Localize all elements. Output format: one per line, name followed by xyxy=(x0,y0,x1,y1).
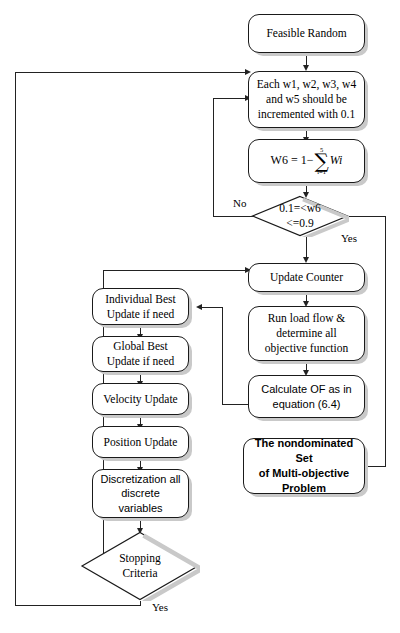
summation-lower-limit: i=1 xyxy=(317,169,326,176)
node-feasible-random[interactable]: Feasible Random xyxy=(248,14,365,53)
edge-calcof-horizontal-out xyxy=(222,404,248,405)
node-stopping-criteria[interactable]: Stopping Criteria xyxy=(80,531,200,601)
node-velocity-update[interactable]: Velocity Update xyxy=(92,383,189,415)
node-position-update[interactable]: Position Update xyxy=(92,426,189,458)
node-feasible-random-label: Feasible Random xyxy=(261,26,351,41)
summation-symbol: 5 ∑ i=1 xyxy=(314,147,328,175)
node-run-load-flow-label: Run load flow & determine all objective … xyxy=(260,311,353,355)
node-w6-check[interactable]: 0.1=<w6 <=0.9 xyxy=(251,195,349,237)
edge-stopyes-horizontal-bottom xyxy=(15,605,141,606)
edge-check-to-counter xyxy=(306,237,307,259)
summation-sigma-glyph: ∑ xyxy=(314,153,328,170)
node-w6-formula-expression: W6 = 1− 5 ∑ i=1 Wi xyxy=(271,147,343,175)
node-update-counter-label: Update Counter xyxy=(265,270,348,285)
node-increment-weights[interactable]: Each w1, w2, w3, w4 and w5 should be inc… xyxy=(248,71,365,128)
node-increment-weights-label: Each w1, w2, w3, w4 and w5 should be inc… xyxy=(252,77,361,121)
node-nondominated-set-label: The nondominated Set of Multi-objective … xyxy=(244,436,364,497)
edge-w6no-vertical xyxy=(213,98,214,217)
edge-calcof-horizontal-in xyxy=(200,307,223,308)
node-global-best-label: Global Best Update if need xyxy=(102,339,180,368)
edge-stopyes-vertical-up xyxy=(15,72,16,606)
node-w6-formula[interactable]: W6 = 1− 5 ∑ i=1 Wi xyxy=(248,139,365,183)
summation-term: Wi xyxy=(330,153,343,168)
edge-stopno-horizontal-in xyxy=(103,270,248,271)
node-update-counter[interactable]: Update Counter xyxy=(248,263,365,292)
flowchart-canvas: No Yes No Yes Feasible Random Each w1, w… xyxy=(0,0,400,633)
edge-w6yes-vertical xyxy=(385,216,386,467)
node-velocity-update-label: Velocity Update xyxy=(98,392,182,407)
edge-w6yes-horizontal-out xyxy=(349,216,386,217)
node-global-best[interactable]: Global Best Update if need xyxy=(92,336,189,372)
node-calculate-of[interactable]: Calculate OF as in equation (6.4) xyxy=(248,375,365,418)
node-run-load-flow[interactable]: Run load flow & determine all objective … xyxy=(248,306,365,361)
edge-stopyes-horizontal-top xyxy=(15,72,248,73)
w6-formula-lhs: W6 = 1− xyxy=(271,153,314,168)
edge-label-stopping-yes: Yes xyxy=(152,601,168,613)
node-w6-check-label: 0.1=<w6 <=0.9 xyxy=(251,195,349,237)
node-position-update-label: Position Update xyxy=(99,435,183,450)
node-nondominated-set[interactable]: The nondominated Set of Multi-objective … xyxy=(243,438,365,494)
node-stopping-criteria-label: Stopping Criteria xyxy=(80,531,200,601)
edge-w6no-horizontal-in xyxy=(213,98,248,99)
node-individual-best-label: Individual Best Update if need xyxy=(100,292,181,321)
node-calculate-of-label: Calculate OF as in equation (6.4) xyxy=(256,382,356,411)
node-discretization[interactable]: Discretization all discrete variables xyxy=(92,469,189,518)
edge-label-w6-no: No xyxy=(233,197,246,209)
arrowhead-calcof-to-individualbest xyxy=(196,304,202,310)
edge-calcof-vertical xyxy=(222,307,223,405)
node-individual-best[interactable]: Individual Best Update if need xyxy=(92,288,189,325)
node-discretization-label: Discretization all discrete variables xyxy=(95,472,185,516)
